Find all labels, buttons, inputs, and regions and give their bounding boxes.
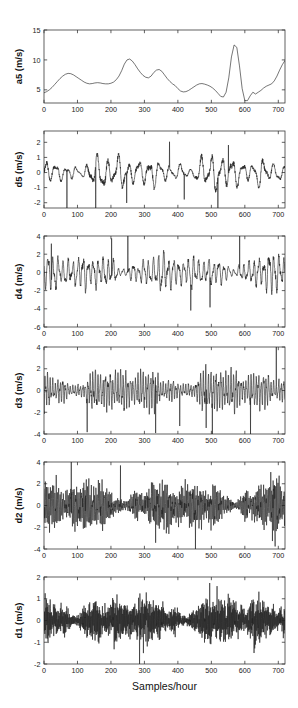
y-axis-title-d5: d5 (m/s) — [13, 152, 24, 188]
series-line-d4 — [44, 236, 285, 311]
plot-frame — [44, 131, 285, 208]
y-tick-label: -2 — [34, 408, 40, 417]
x-tick-label: 100 — [71, 210, 83, 219]
chart-panel-d3: 0100200300400500600700-4-2024d3 (m/s) — [0, 333, 298, 452]
x-tick-label: 100 — [71, 105, 83, 114]
y-tick-label: 2 — [37, 573, 41, 582]
x-tick-label: 100 — [71, 551, 83, 560]
y-tick-label: 4 — [37, 458, 41, 467]
x-tick-label: 700 — [272, 105, 284, 114]
x-tick-label: 700 — [272, 551, 284, 560]
y-tick-label: 4 — [37, 343, 41, 352]
y-axis-title-d1: d1 (m/s) — [13, 603, 24, 639]
x-tick-label: 100 — [71, 436, 83, 445]
y-axis-title-d3: d3 (m/s) — [13, 373, 24, 409]
y-tick-label: -2 — [34, 523, 40, 532]
y-tick-label: -2 — [34, 198, 40, 207]
series-line-d1 — [44, 583, 285, 664]
y-tick-label: 2 — [37, 138, 41, 147]
x-tick-label: 0 — [42, 551, 46, 560]
y-tick-label: 0 — [37, 268, 41, 277]
x-tick-label: 600 — [239, 105, 251, 114]
x-tick-label: 300 — [138, 436, 150, 445]
x-tick-label: 700 — [272, 210, 284, 219]
x-axis-title: Samples/hour — [132, 680, 197, 692]
y-tick-label: 10 — [33, 56, 41, 65]
series-line-d2 — [44, 462, 285, 549]
y-tick-label: 2 — [37, 250, 41, 259]
x-tick-label: 500 — [205, 436, 217, 445]
x-tick-label: 200 — [105, 105, 117, 114]
chart-panel-d2: 0100200300400500600700-4-2024d2 (m/s) — [0, 448, 298, 567]
x-tick-label: 500 — [205, 105, 217, 114]
y-axis-title-d4: d4 (m/s) — [13, 264, 24, 300]
series-line-d3 — [44, 347, 285, 434]
y-tick-label: -1 — [34, 183, 40, 192]
x-tick-label: 300 — [138, 666, 150, 675]
x-tick-label: 500 — [205, 666, 217, 675]
y-tick-label: 1 — [37, 153, 41, 162]
x-tick-label: 400 — [172, 436, 184, 445]
x-tick-label: 500 — [205, 210, 217, 219]
x-tick-label: 500 — [205, 551, 217, 560]
y-tick-label: 1 — [37, 594, 41, 603]
x-tick-label: 400 — [172, 210, 184, 219]
x-tick-label: 0 — [42, 436, 46, 445]
x-tick-label: 600 — [239, 210, 251, 219]
x-tick-label: 700 — [272, 666, 284, 675]
y-tick-label: -4 — [34, 304, 40, 313]
y-tick-label: -1 — [34, 638, 40, 647]
series-line-a5 — [44, 45, 285, 101]
x-tick-label: 600 — [239, 551, 251, 560]
y-tick-label: -2 — [34, 286, 40, 295]
y-tick-label: 0 — [37, 386, 41, 395]
x-tick-label: 300 — [138, 105, 150, 114]
x-tick-label: 100 — [71, 666, 83, 675]
x-tick-label: 200 — [105, 551, 117, 560]
plot-frame — [44, 30, 285, 103]
y-tick-label: -6 — [34, 323, 40, 332]
x-tick-label: 200 — [105, 210, 117, 219]
y-axis-title-a5: a5 (m/s) — [13, 49, 24, 84]
x-tick-label: 0 — [42, 666, 46, 675]
x-tick-label: 600 — [239, 666, 251, 675]
chart-panel-a5: 010020030040050060070051015a5 (m/s) — [0, 16, 298, 121]
wavelet-decomposition-figure: 010020030040050060070051015a5 (m/s)01002… — [0, 0, 298, 708]
chart-panel-d5: 0100200300400500600700-2-1012d5 (m/s) — [0, 117, 298, 226]
x-tick-label: 0 — [42, 210, 46, 219]
y-tick-label: 15 — [33, 26, 41, 35]
x-tick-label: 300 — [138, 210, 150, 219]
y-tick-label: -4 — [34, 545, 40, 554]
y-tick-label: 0 — [37, 168, 41, 177]
y-tick-label: 2 — [37, 479, 41, 488]
y-tick-label: 5 — [37, 85, 41, 94]
chart-panel-d4: 0100200300400500600700-6-4-2024d4 (m/s) — [0, 222, 298, 345]
y-axis-title-d2: d2 (m/s) — [13, 488, 24, 524]
y-tick-label: -2 — [34, 660, 40, 669]
y-tick-label: 0 — [37, 616, 41, 625]
x-tick-label: 600 — [239, 436, 251, 445]
x-tick-label: 200 — [105, 436, 117, 445]
x-tick-label: 200 — [105, 666, 117, 675]
x-tick-label: 400 — [172, 551, 184, 560]
y-tick-label: -4 — [34, 430, 40, 439]
chart-panel-d1: 0100200300400500600700-2-1012d1 (m/s)Sam… — [0, 563, 298, 700]
y-tick-label: 0 — [37, 501, 41, 510]
y-tick-label: 2 — [37, 364, 41, 373]
x-tick-label: 0 — [42, 105, 46, 114]
series-line-d5 — [44, 142, 285, 208]
x-tick-label: 700 — [272, 436, 284, 445]
y-tick-label: 4 — [37, 232, 41, 241]
x-tick-label: 400 — [172, 105, 184, 114]
x-tick-label: 300 — [138, 551, 150, 560]
x-tick-label: 400 — [172, 666, 184, 675]
